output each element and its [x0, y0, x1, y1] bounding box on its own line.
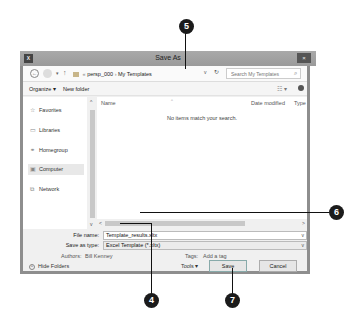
hide-folders-button[interactable]: ^Hide Folders	[29, 263, 69, 270]
file-list[interactable]: Name ^ Date modified Type No items match…	[97, 97, 307, 219]
callout-leader-5	[185, 33, 186, 69]
sidebar-item-homegroup[interactable]: ⚭Homegroup	[28, 145, 84, 156]
folder-icon	[73, 72, 79, 77]
scroll-left-icon[interactable]: <	[99, 220, 102, 226]
file-name-label: File name:	[49, 232, 99, 238]
save-as-dialog: X Save As × ← ▾ ↑ « persp_000 › My Templ…	[20, 51, 310, 274]
authors-value[interactable]: Bill Kenney	[85, 253, 113, 259]
callout-leader-7	[232, 268, 233, 295]
command-toolbar: Organize ▾ New folder ☷ ▾	[23, 82, 307, 96]
search-icon[interactable]: ⌕	[294, 70, 297, 77]
sidebar-item-label: Network	[39, 186, 59, 192]
authors-label: Authors:	[61, 253, 81, 259]
organize-button[interactable]: Organize ▾	[29, 86, 56, 92]
callout-leader-4-vertical	[151, 223, 152, 295]
back-button[interactable]: ←	[30, 69, 39, 78]
forward-button[interactable]	[43, 69, 52, 78]
save-as-type-select[interactable]: Excel Template (*.xltx) v	[103, 241, 307, 250]
navigation-scrollbar[interactable]: ^ v	[89, 97, 96, 229]
up-button[interactable]: ↑	[63, 69, 67, 76]
chevron-down-icon[interactable]: v	[302, 232, 305, 239]
breadcrumb-item-user[interactable]: persp_000	[87, 71, 113, 77]
save-as-type-label: Save as type:	[49, 242, 99, 248]
callout-4: 4	[144, 293, 159, 308]
tools-menu-button[interactable]: Tools ▾	[181, 263, 198, 269]
sidebar-item-network[interactable]: ⧉Network	[28, 184, 84, 195]
network-icon: ⧉	[30, 184, 37, 195]
chevron-up-icon: ^	[29, 264, 35, 270]
change-view-button[interactable]: ☷ ▾	[277, 85, 287, 92]
callout-6: 6	[329, 205, 344, 220]
column-header-type[interactable]: Type	[294, 100, 306, 106]
sidebar-item-label: Homegroup	[39, 147, 68, 153]
scroll-up-icon[interactable]: ^	[90, 99, 92, 105]
empty-message: No items match your search.	[97, 115, 307, 121]
breadcrumb[interactable]: « persp_000 › My Templates	[73, 69, 205, 79]
save-button[interactable]: Save	[209, 260, 247, 272]
cancel-button[interactable]: Cancel	[259, 260, 297, 272]
sidebar-item-label: Libraries	[39, 127, 60, 133]
chevron-down-icon[interactable]: v	[302, 242, 305, 249]
address-bar: ← ▾ ↑ « persp_000 › My Templates v ↻ ⌕	[23, 66, 307, 82]
file-name-field[interactable]: Template_results.xltx v	[103, 231, 307, 240]
sort-indicator-icon: ^	[171, 98, 173, 103]
callout-7: 7	[225, 293, 240, 308]
sidebar-item-label: Favorites	[39, 107, 62, 113]
search-box[interactable]: ⌕	[226, 68, 301, 79]
refresh-icon[interactable]: ↻	[214, 68, 219, 75]
computer-icon: ▣	[30, 164, 37, 175]
callout-leader-4-horizontal	[120, 223, 151, 224]
libraries-icon: ▭	[30, 125, 37, 136]
title-bar[interactable]: X Save As ×	[20, 51, 316, 66]
tags-input[interactable]: Add a tag	[203, 253, 227, 259]
file-name-value: Template_results.xltx	[106, 232, 157, 238]
star-icon: ☆	[30, 105, 37, 116]
callout-5: 5	[179, 19, 194, 34]
dialog-title: Save As	[20, 54, 316, 61]
help-icon[interactable]	[298, 85, 304, 91]
save-as-type-value: Excel Template (*.xltx)	[106, 242, 160, 248]
breadcrumb-item-my-templates[interactable]: My Templates	[118, 71, 152, 77]
sidebar-item-label: Computer	[39, 166, 63, 172]
callout-leader-6	[140, 212, 329, 213]
column-header-name[interactable]: Name	[101, 100, 116, 106]
tags-label: Tags:	[185, 253, 198, 259]
scroll-right-icon[interactable]: >	[302, 220, 305, 226]
homegroup-icon: ⚭	[30, 145, 37, 156]
hide-folders-label: Hide Folders	[38, 263, 69, 269]
new-folder-button[interactable]: New folder	[63, 86, 89, 92]
recent-locations-button[interactable]: ▾	[56, 70, 59, 76]
address-dropdown-button[interactable]: v	[204, 69, 207, 75]
sidebar-item-libraries[interactable]: ▭Libraries	[28, 125, 84, 136]
scrollbar-thumb[interactable]	[90, 110, 95, 218]
breadcrumb-separator[interactable]: ›	[115, 71, 117, 77]
navigation-pane: ☆Favorites ▭Libraries ⚭Homegroup ▣Comput…	[23, 97, 87, 229]
close-button[interactable]: ×	[297, 53, 311, 63]
sidebar-item-computer[interactable]: ▣Computer	[28, 164, 84, 175]
search-input[interactable]	[227, 69, 287, 78]
column-header-date-modified[interactable]: Date modified	[251, 100, 285, 106]
sidebar-item-favorites[interactable]: ☆Favorites	[28, 105, 84, 116]
breadcrumb-prefix: «	[83, 71, 86, 77]
scroll-down-icon[interactable]: v	[90, 221, 93, 227]
